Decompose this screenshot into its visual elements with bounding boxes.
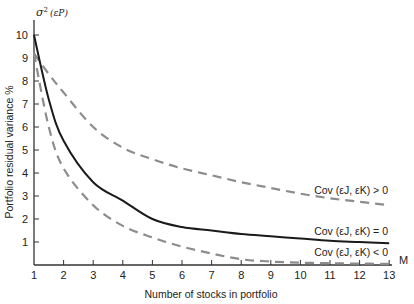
x-tick-label: 10 [294, 269, 306, 281]
x-tick-label: 6 [179, 269, 185, 281]
label-zero-covariance: Cov (εJ, εK) = 0 [314, 225, 388, 237]
y-tick-label: 8 [22, 75, 28, 87]
y-tick-label: 3 [22, 190, 28, 202]
y-tick-label: 2 [22, 213, 28, 225]
x-tick-label: 4 [120, 269, 126, 281]
x-tick-label: 5 [149, 269, 155, 281]
y-tick-label: 1 [22, 236, 28, 248]
x-tick-label: 8 [238, 269, 244, 281]
y-tick-label: 7 [22, 98, 28, 110]
curve-positive-covariance [34, 53, 389, 205]
curve-zero-covariance [34, 35, 389, 243]
x-axis-end-label: M [399, 254, 408, 266]
x-tick-label: 3 [90, 269, 96, 281]
y-tick-label: 10 [16, 29, 28, 41]
x-axis-title: Number of stocks in portfolio [144, 288, 277, 300]
label-negative-covariance: Cov (εJ, εK) < 0 [314, 246, 388, 258]
residual-variance-chart: 12345678910111213 12345678910 M σ2(εP) P… [0, 0, 414, 304]
y-axis-symbol: σ2(εP) [36, 6, 68, 19]
x-tick-label: 1 [31, 269, 37, 281]
label-positive-covariance: Cov (εJ, εK) > 0 [314, 184, 388, 196]
y-axis-title: Portfolio residual variance % [3, 85, 15, 218]
x-tick-label: 12 [353, 269, 365, 281]
y-tick-label: 5 [22, 144, 28, 156]
x-tick-label: 13 [383, 269, 395, 281]
x-tick-label: 9 [268, 269, 274, 281]
y-tick-label: 6 [22, 121, 28, 133]
y-tick-label: 4 [22, 167, 28, 179]
x-tick-label: 7 [209, 269, 215, 281]
y-tick-label: 9 [22, 52, 28, 64]
x-tick-label: 11 [324, 269, 335, 281]
x-tick-label: 2 [61, 269, 67, 281]
